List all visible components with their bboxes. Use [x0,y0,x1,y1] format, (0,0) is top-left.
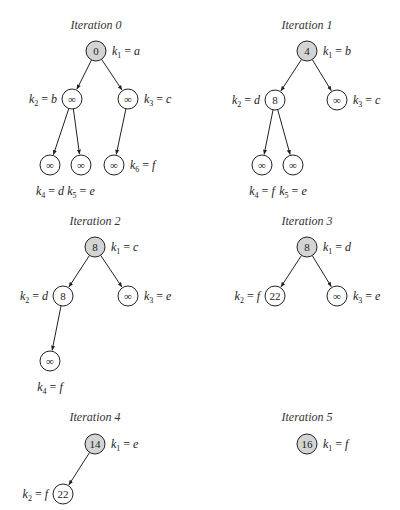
heap-node-k3: ∞k3 = c [327,90,381,110]
node-key-label: k5 = e [279,184,307,200]
node-key-label: k1 = b [323,44,351,60]
heap-node-k1: 8k1 = c [85,237,139,257]
heap-node-k1: 8k1 = d [297,237,352,257]
node-key-label: k1 = c [111,240,139,256]
iteration-title: Iteration 4 [69,410,121,424]
node-value: 0 [93,45,99,57]
heap-node-k2: ∞k2 = b [29,89,82,109]
heap-node-k3: ∞k3 = e [327,286,381,306]
iteration-5: Iteration 516k1 = f [281,410,351,454]
heap-node-k4: ∞k4 = f [37,351,64,396]
iterations-group: Iteration 00k1 = a∞k2 = b∞k3 = c∞k4 = d∞… [20,18,381,504]
node-key-label: k4 = d [36,184,65,200]
heap-node-k2: 22k2 = f [235,286,285,306]
edge-arrow [278,110,290,155]
edge-arrow [312,256,331,287]
node-value: ∞ [124,93,132,105]
heap-node-k2: 8k2 = d [232,90,285,110]
node-key-label: k1 = f [323,437,350,453]
edge-arrow [264,110,273,154]
iteration-title: Iteration 5 [281,410,333,424]
node-value: ∞ [46,159,54,171]
edge-arrow [281,59,302,90]
heap-node-k6: ∞k6 = f [104,155,157,175]
iteration-3: Iteration 38k1 = d22k2 = f∞k3 = e [235,214,382,306]
node-value: 8 [304,241,310,253]
node-value: ∞ [289,159,297,171]
node-value: ∞ [333,290,341,302]
node-value: ∞ [258,159,266,171]
iteration-2: Iteration 28k1 = c8k2 = d∞k3 = e∞k4 = f [20,214,172,396]
heap-node-k3: ∞k3 = c [118,89,172,109]
iteration-4: Iteration 414k1 = e22k2 = f [23,410,140,504]
node-key-label: k3 = c [144,92,172,108]
edge-arrow [77,60,92,89]
edge-arrow [116,109,126,154]
node-value: 4 [304,45,310,57]
iteration-1: Iteration 14k1 = b8k2 = d∞k3 = c∞k4 = f∞… [232,18,381,200]
node-key-label: k2 = b [29,92,57,108]
node-value: 14 [90,438,102,450]
node-key-label: k5 = e [67,184,95,200]
heap-node-k2: 22k2 = f [23,484,73,504]
heap-iterations-diagram: Iteration 00k1 = a∞k2 = b∞k3 = c∞k4 = d∞… [0,0,400,510]
heap-node-k1: 0k1 = a [86,41,140,61]
node-value: ∞ [110,159,118,171]
node-key-label: k3 = e [144,289,172,305]
edge-arrow [73,109,79,154]
node-key-label: k1 = a [112,44,140,60]
heap-node-k3: ∞k3 = e [118,286,172,306]
edge-arrow [101,255,122,287]
node-key-label: k3 = e [353,289,381,305]
iteration-title: Iteration 0 [70,18,122,32]
node-value: 8 [272,94,278,106]
iteration-title: Iteration 3 [281,214,333,228]
heap-node-k4: ∞k4 = f [249,155,276,200]
iteration-title: Iteration 2 [69,214,121,228]
node-value: 16 [302,438,314,450]
node-value: ∞ [46,355,54,367]
node-key-label: k2 = d [20,289,49,305]
node-value: 22 [270,290,281,302]
iteration-title: Iteration 1 [281,18,333,32]
node-value: ∞ [124,290,132,302]
node-key-label: k2 = f [23,487,50,503]
heap-node-k1: 4k1 = b [297,41,351,61]
node-key-label: k2 = f [235,289,262,305]
heap-node-k1: 14k1 = e [85,434,139,454]
node-key-label: k3 = c [353,93,381,109]
node-value: ∞ [333,94,341,106]
edge-arrow [281,255,302,286]
node-key-label: k1 = e [111,437,139,453]
edge-arrow [312,60,331,91]
node-value: 8 [60,290,66,302]
heap-node-k5: ∞k5 = e [67,155,95,200]
edge-arrow [102,59,122,90]
node-value: ∞ [77,159,85,171]
node-value: ∞ [68,93,76,105]
heap-node-k4: ∞k4 = d [36,155,65,200]
edge-arrow [69,255,90,286]
node-key-label: k4 = f [249,184,276,200]
heap-node-k1: 16k1 = f [297,434,350,454]
node-value: 22 [58,488,69,500]
heap-node-k2: 8k2 = d [20,286,73,306]
edge-arrow [69,452,90,484]
heap-node-k5: ∞k5 = e [279,155,307,200]
node-key-label: k2 = d [232,93,261,109]
edge-arrow [52,306,61,350]
node-value: 8 [92,241,98,253]
edge-arrow [53,108,68,154]
iteration-0: Iteration 00k1 = a∞k2 = b∞k3 = c∞k4 = d∞… [29,18,172,200]
node-key-label: k6 = f [130,158,157,174]
node-key-label: k1 = d [323,240,352,256]
node-key-label: k4 = f [37,380,64,396]
